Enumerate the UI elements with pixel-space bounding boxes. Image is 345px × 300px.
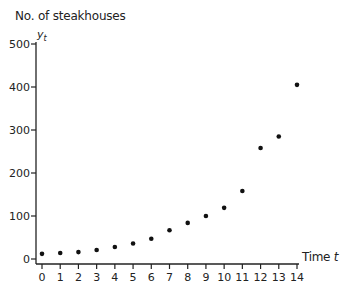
x-tick-label: 8 [184, 271, 191, 284]
data-point [131, 241, 136, 246]
data-point [58, 251, 63, 256]
x-tick-label: 9 [202, 271, 209, 284]
data-points [40, 83, 300, 257]
x-tick-label: 12 [254, 271, 268, 284]
y-tick-label: 500 [9, 38, 30, 51]
data-point [167, 228, 172, 233]
scatter-plot: 010020030040050001234567891011121314 [0, 0, 345, 300]
x-tick-label: 11 [235, 271, 249, 284]
x-tick-label: 4 [111, 271, 118, 284]
data-point [222, 206, 227, 211]
data-point [94, 248, 99, 253]
data-point [76, 250, 81, 255]
y-tick-label: 100 [9, 210, 30, 223]
x-tick-label: 7 [166, 271, 173, 284]
y-tick-label: 200 [9, 167, 30, 180]
axes: 010020030040050001234567891011121314 [9, 38, 304, 284]
x-tick-label: 5 [130, 271, 137, 284]
data-point [185, 221, 190, 226]
x-tick-label: 3 [93, 271, 100, 284]
y-tick-label: 0 [23, 253, 30, 266]
data-point [276, 134, 281, 139]
x-tick-label: 10 [217, 271, 231, 284]
data-point [40, 252, 45, 257]
x-tick-label: 13 [272, 271, 286, 284]
data-point [204, 214, 209, 219]
x-tick-label: 0 [39, 271, 46, 284]
y-tick-label: 400 [9, 81, 30, 94]
data-point [113, 245, 118, 250]
x-tick-label: 1 [57, 271, 64, 284]
x-tick-label: 2 [75, 271, 82, 284]
x-tick-label: 6 [148, 271, 155, 284]
data-point [258, 146, 263, 151]
data-point [149, 236, 154, 241]
data-point [295, 83, 300, 88]
data-point [240, 189, 245, 194]
x-tick-label: 14 [290, 271, 304, 284]
y-tick-label: 300 [9, 124, 30, 137]
